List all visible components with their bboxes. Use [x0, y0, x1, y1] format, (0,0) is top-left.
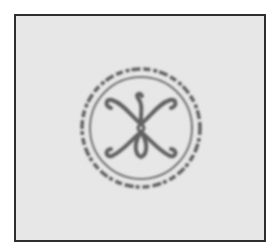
- image-frame: [14, 14, 266, 242]
- paper-grain: [16, 16, 264, 240]
- stamp-photo: [16, 16, 264, 240]
